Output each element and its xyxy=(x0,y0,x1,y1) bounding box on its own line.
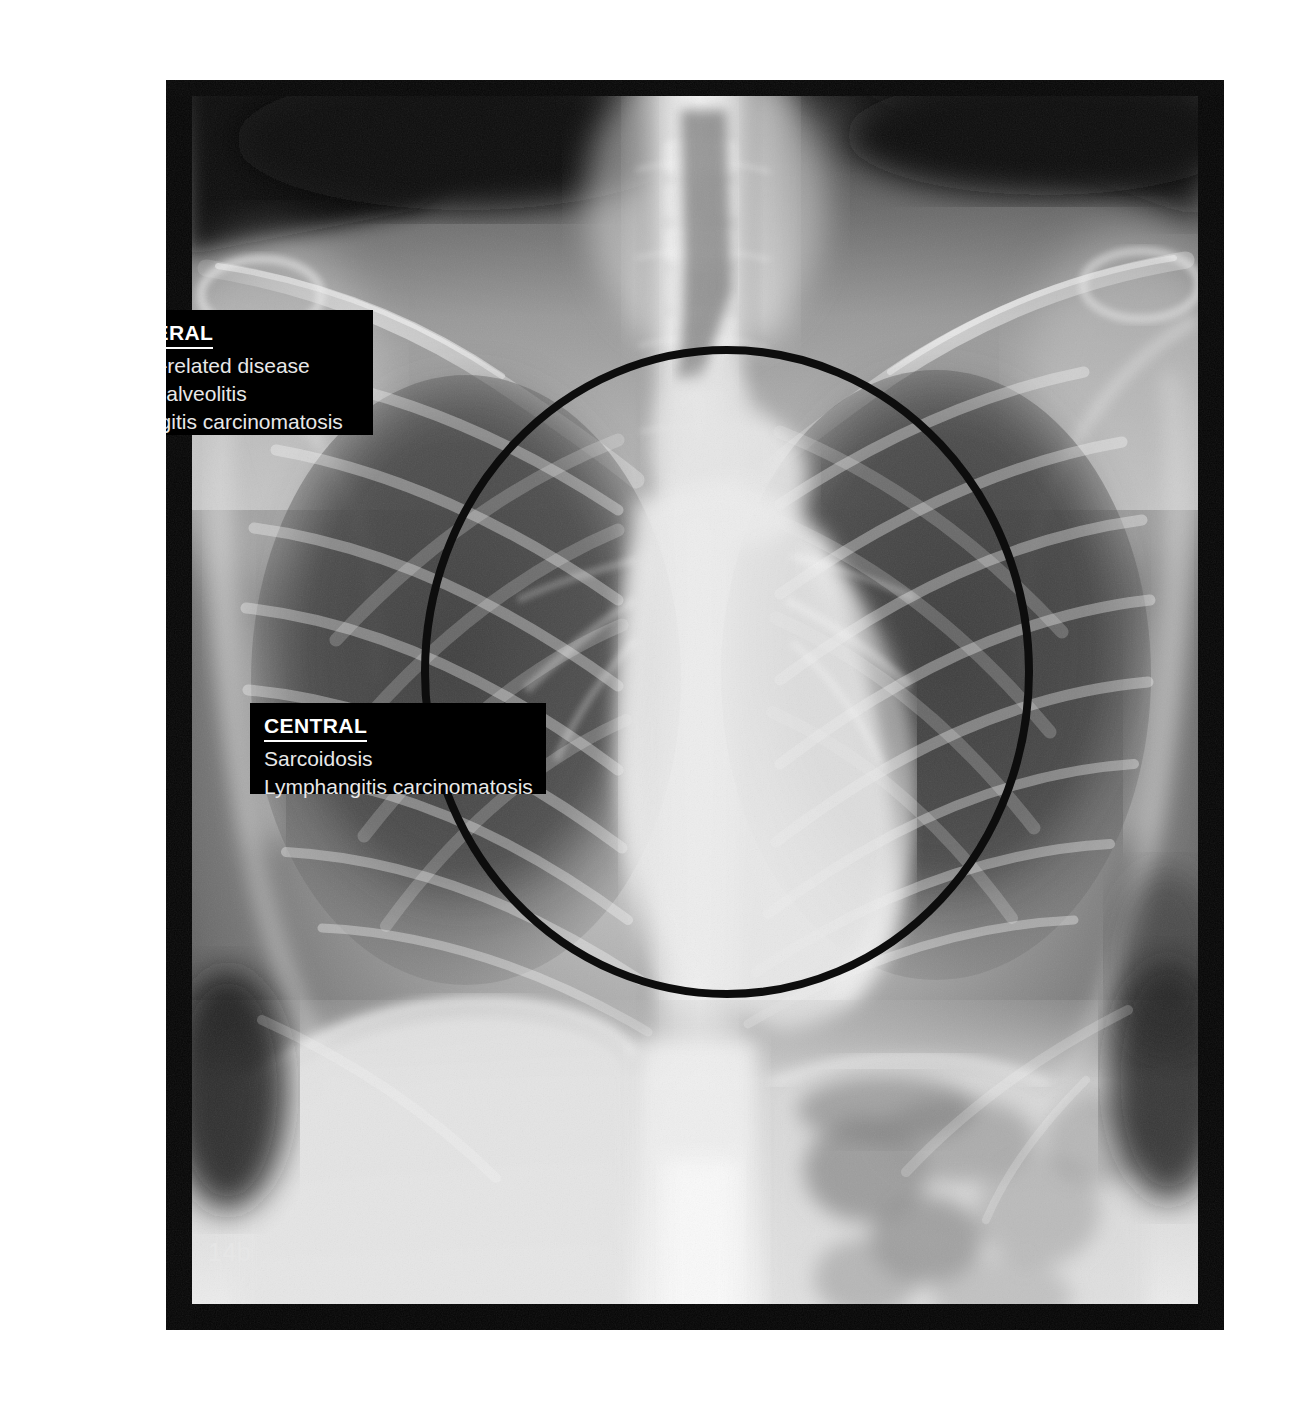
label-central-item-2: Lymphangitis carcinomatosis xyxy=(264,773,532,801)
figure-number: 14b xyxy=(208,1238,251,1267)
label-central-heading: CENTRAL xyxy=(264,713,367,742)
label-central: CENTRAL Sarcoidosis Lymphangitis carcino… xyxy=(250,703,546,794)
label-central-item-1: Sarcoidosis xyxy=(264,745,532,773)
label-peripheral-item-3: Lymphangitis carcinomatosis xyxy=(166,408,359,436)
figure-page: PERIPHERAL Asbestos-related disease Fibr… xyxy=(0,0,1294,1412)
chest-radiograph-image: PERIPHERAL Asbestos-related disease Fibr… xyxy=(166,80,1224,1330)
label-peripheral-item-1: Asbestos-related disease xyxy=(166,352,359,380)
label-peripheral: PERIPHERAL Asbestos-related disease Fibr… xyxy=(166,310,373,435)
label-peripheral-heading: PERIPHERAL xyxy=(166,320,213,349)
label-peripheral-item-2: Fibrosing alveolitis xyxy=(166,380,359,408)
